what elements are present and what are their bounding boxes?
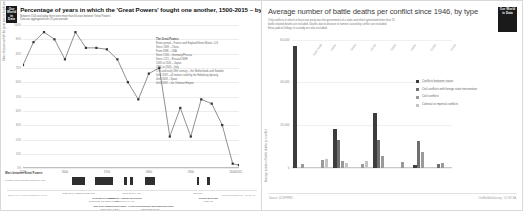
left-x-tick: 1900 — [188, 170, 194, 174]
left-y-tick: 100% — [14, 24, 21, 27]
right-x-tick: 1980s — [389, 43, 397, 52]
right-y-tick: 40,000 — [280, 80, 289, 84]
great-powers-list: Entire period – France and England/Great… — [156, 42, 260, 86]
war-duration-bar — [107, 177, 112, 185]
bar-civil-conflicts — [301, 164, 305, 168]
right-header: Average number of battle deaths per conf… — [262, 1, 522, 32]
legend-swatch — [416, 104, 419, 107]
great-power-entry: Until 1699 – the Ottoman Empire — [156, 82, 260, 86]
war-label: War of the Spanish Succession(1701-1714,… — [88, 205, 132, 211]
legend-item[interactable]: Conflicts between states — [416, 80, 516, 84]
legend-item[interactable]: Civil conflicts with foreign state inter… — [416, 88, 516, 92]
left-subtitle-2: Data are aggregated over 25-year periods… — [20, 18, 166, 22]
left-header: Our World in Data Percentage of years in… — [1, 1, 261, 23]
bar-colonial-or-imperial-conflicts — [345, 163, 349, 167]
right-x-tick: 1946-1949 — [312, 43, 323, 57]
right-title-block: Average number of battle deaths per conf… — [268, 7, 494, 32]
right-x-tick: 1990s — [409, 43, 417, 52]
bar-civil-conflicts — [381, 156, 385, 167]
war-years: (1914-18) — [176, 192, 220, 195]
right-x-tick: 1960s — [349, 43, 357, 52]
bar-civil-conflicts — [421, 152, 425, 168]
left-y-axis-label: Share of years in which the great powers… — [3, 0, 6, 61]
war-name: French Revolutionary and Napoleonic Wars — [128, 205, 173, 207]
bar-civil-conflicts — [441, 163, 445, 168]
legend-label: Conflicts between states — [422, 80, 453, 83]
war-years: (1701-1714, 1.2 m.) — [88, 208, 132, 211]
legend-swatch — [416, 88, 419, 91]
left-y-tick: 70% — [16, 67, 21, 70]
war-label: Second World War(1939-45) — [186, 197, 230, 203]
legend-label: Colonial or imperial conflicts — [422, 103, 458, 106]
left-attribution[interactable]: OurWorldInData.org · CC BY-SA — [221, 194, 256, 197]
left-x-tick: 1800 — [146, 170, 152, 174]
great-powers-legend: The Great Powers Entire period – France … — [156, 38, 260, 86]
war-duration-bar — [72, 177, 85, 185]
left-y-tick: 10% — [16, 152, 21, 155]
left-y-tick: 60% — [16, 81, 21, 84]
war-duration-bar — [197, 177, 199, 185]
left-x-tick: 1700 — [104, 170, 110, 174]
right-legend: Conflicts between statesCivil conflicts … — [416, 80, 516, 112]
wars-title: Wars between Great Powers — [5, 171, 43, 175]
right-chart-body: Average number of battle deaths per conf… — [262, 32, 523, 202]
dual-chart-sheet: Our World in Data Percentage of years in… — [0, 0, 523, 211]
war-name: War of the Spanish Succession — [94, 205, 127, 207]
right-y-tick: 20,000 — [280, 123, 289, 127]
left-y-tick: 20% — [16, 138, 21, 141]
left-footer-divider — [7, 190, 257, 191]
right-x-tick: 1950s — [329, 43, 337, 52]
war-years: (1740-1748, 0.4 m.) — [103, 200, 147, 203]
legend-swatch — [416, 96, 419, 99]
right-gridline — [292, 40, 452, 41]
left-chart-body: Share of years in which the great powers… — [1, 23, 262, 198]
right-gridline — [292, 125, 452, 126]
bar-civil-conflicts — [401, 162, 405, 168]
right-chart-panel: Average number of battle deaths per conf… — [262, 0, 523, 211]
legend-item[interactable]: Civil conflicts — [416, 95, 516, 99]
right-x-tick: 2010s — [449, 43, 457, 52]
left-y-tick: 30% — [16, 124, 21, 127]
left-chart-title: Percentage of years in which the 'Great … — [20, 6, 262, 13]
legend-item[interactable]: Colonial or imperial conflicts — [416, 103, 516, 107]
war-name: Second World War — [199, 197, 218, 199]
legend-label: Civil conflicts with foreign state inter… — [422, 88, 477, 91]
left-source-note: Data: Levy (1983) and Brecke (1999) — [8, 194, 47, 197]
war-label: French Revolutionary and Napoleonic Wars… — [128, 205, 172, 211]
war-label: War of the Austrian Succession(1740-1748… — [103, 197, 147, 203]
right-source-note: Source: UCDP/PRIO — [269, 197, 293, 200]
left-title-block: Percentage of years in which the 'Great … — [20, 6, 262, 23]
war-duration-bar — [145, 177, 155, 185]
left-y-tick: 80% — [16, 52, 21, 55]
bar-colonial-or-imperial-conflicts — [325, 159, 329, 167]
bar-colonial-or-imperial-conflicts — [365, 161, 369, 168]
war-years: (1618-1648, 8 million people died) — [57, 192, 101, 195]
left-gridline — [23, 168, 239, 169]
bar-conflicts-between-states — [293, 46, 297, 168]
left-y-tick: 50% — [16, 95, 21, 98]
wars-annotation-strip: Wars between Great Powers (Length of bar… — [23, 175, 239, 211]
owid-logo-left: Our World in Data — [6, 6, 17, 23]
left-y-tick: 90% — [16, 38, 21, 41]
legend-label: Civil conflicts — [422, 95, 439, 98]
war-duration-bar — [207, 177, 210, 185]
right-gridline — [292, 168, 452, 169]
wars-subtitle: (Length of bar indicates duration of war… — [5, 179, 46, 181]
war-duration-bar — [124, 177, 127, 185]
war-years: (1939-45) — [186, 200, 230, 203]
war-years: (1740-1748, 0.4 m.) — [110, 192, 154, 195]
war-years: (1792-1815, 2.5 m.) — [128, 208, 172, 211]
left-x-tick: 1600 — [62, 170, 68, 174]
right-y-tick: 0 — [288, 166, 290, 170]
right-y-tick: 60,000 — [280, 38, 289, 42]
right-attribution[interactable]: OurWorldInData.org · CC BY-SA — [479, 197, 516, 200]
left-y-tick: 40% — [16, 109, 21, 112]
right-x-tick: 2000s — [429, 43, 437, 52]
war-name: War of the Austrian Succession — [109, 197, 142, 199]
right-y-axis-label: Average number of battle deaths per conf… — [265, 129, 268, 182]
great-powers-heading: The Great Powers — [156, 38, 260, 41]
left-x-tick: 2015 — [236, 170, 242, 174]
right-footer-divider — [268, 193, 517, 194]
left-chart-panel: Our World in Data Percentage of years in… — [0, 0, 262, 211]
owid-logo-right: Our World in Data — [498, 7, 517, 32]
